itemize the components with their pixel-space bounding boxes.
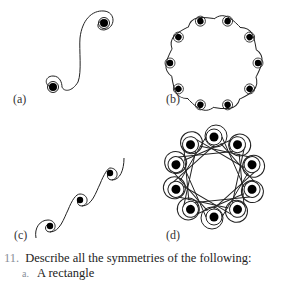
spiral-strip-figure (0, 120, 142, 240)
looped-spiral-ring-figure (142, 120, 284, 240)
exercise-number: 11. (4, 251, 19, 265)
item-bullet: a. (22, 268, 29, 279)
item-text: A rectangle (37, 266, 94, 280)
exercise-item-a: a.A rectangle (22, 266, 94, 281)
spiral-ring-figure (142, 0, 284, 120)
figure-b: (b) (142, 0, 284, 120)
exercise-prompt: Describe all the symmetries of the follo… (25, 251, 251, 265)
figure-d: (d) (142, 120, 284, 240)
figure-label-d: (d) (166, 228, 180, 243)
figure-label-b: (b) (166, 92, 180, 107)
figure-label-c: (c) (14, 228, 27, 243)
figure-a: (a) (0, 0, 142, 120)
figure-c: (c) (0, 120, 142, 240)
exercise-11: 11.Describe all the symmetries of the fo… (4, 251, 252, 266)
figure-label-a: (a) (13, 92, 26, 107)
